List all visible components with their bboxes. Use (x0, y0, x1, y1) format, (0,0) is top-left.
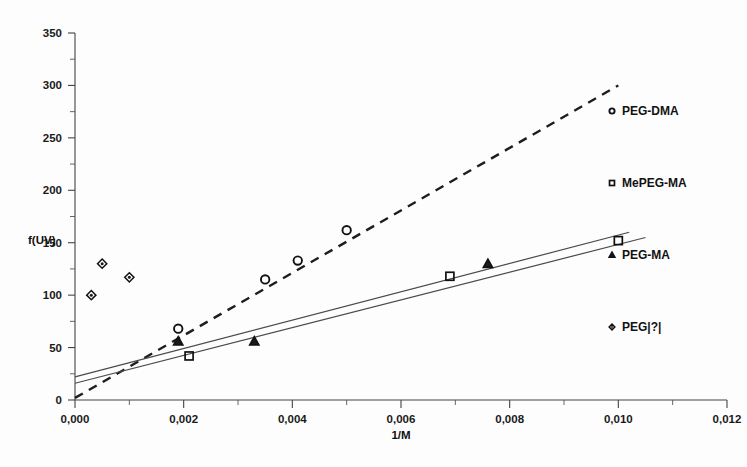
x-tick-label: 0,006 (387, 413, 416, 425)
fit-line-mepeg-ma (75, 237, 646, 383)
marker-circle (342, 226, 350, 234)
y-tick-label: 350 (43, 27, 62, 39)
legend-label: PEG-MA (622, 248, 670, 262)
circle-icon (342, 226, 350, 234)
diamond-center-dot (128, 276, 131, 279)
x-axis-title: 1/M (391, 429, 410, 441)
data-points (87, 226, 623, 360)
y-tick-label: 300 (43, 79, 62, 91)
y-tick-label: 200 (43, 184, 62, 196)
y-tick-label: 250 (43, 132, 62, 144)
y-tick-label: 0 (56, 394, 62, 406)
marker-diamond (125, 273, 134, 282)
chart-page: 050100150200250300350 0,0000,0020,0040,0… (0, 0, 747, 467)
marker-circle (174, 324, 182, 332)
marker-circle (261, 275, 269, 283)
circle-icon (261, 275, 269, 283)
series-peg (87, 259, 134, 300)
triangle-icon (609, 252, 615, 257)
diamond-center-dot (611, 326, 613, 328)
legend-label: PEG-DMA (622, 104, 679, 118)
series-peg-dma (174, 226, 351, 333)
legend-item-mepeg-ma: MePEG-MA (610, 176, 687, 190)
marker-circle (294, 256, 302, 264)
triangle-icon (483, 259, 492, 267)
square-icon (610, 181, 615, 186)
marker-diamond (98, 259, 107, 268)
y-tick-label: 100 (43, 289, 62, 301)
marker-triangle (483, 259, 492, 267)
x-tick-label: 0,010 (604, 413, 633, 425)
y-tick-label: 50 (49, 342, 62, 354)
diamond-center-dot (101, 262, 104, 265)
x-tick-label: 0,002 (169, 413, 198, 425)
marker-circle (609, 108, 614, 113)
marker-triangle (609, 252, 615, 257)
marker-diamond (87, 291, 96, 300)
series-peg-ma (174, 259, 493, 345)
marker-diamond (609, 324, 615, 330)
circle-icon (174, 324, 182, 332)
diamond-center-dot (90, 294, 93, 297)
series-mepeg-ma (185, 237, 622, 360)
fit-line-peg-dma (75, 85, 618, 397)
mayo-plot-figure: 050100150200250300350 0,0000,0020,0040,0… (0, 0, 747, 467)
legend-label: MePEG-MA (622, 176, 687, 190)
circle-icon (609, 108, 614, 113)
x-tick-label: 0,000 (61, 413, 90, 425)
x-axis-ticks (75, 400, 727, 408)
legend-item-peg: PEG|?| (609, 320, 661, 334)
legend-label: PEG|?| (622, 320, 661, 334)
x-axis-tick-labels: 0,0000,0020,0040,0060,0080,0100,012 (61, 413, 742, 425)
circle-icon (294, 256, 302, 264)
legend-item-peg-dma: PEG-DMA (609, 104, 679, 118)
regression-lines (75, 85, 646, 397)
y-axis-ticks (68, 33, 75, 400)
y-axis-tick-labels: 050100150200250300350 (43, 27, 62, 406)
fit-line-peg-ma (75, 232, 629, 377)
x-tick-label: 0,012 (713, 413, 742, 425)
x-tick-label: 0,008 (495, 413, 524, 425)
x-tick-label: 0,004 (278, 413, 307, 425)
y-axis-title: f(UV) (28, 234, 56, 246)
legend-item-peg-ma: PEG-MA (609, 248, 670, 262)
marker-square (610, 181, 615, 186)
legend: PEG-DMAMePEG-MAPEG-MAPEG|?| (609, 104, 687, 334)
